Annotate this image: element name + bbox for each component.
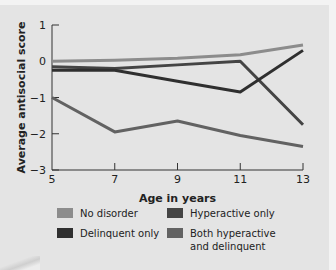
legend-label-line: Both hyperactive (190, 227, 276, 240)
y-tick-label: −1 (30, 92, 46, 105)
y-tick-label: −2 (30, 128, 46, 141)
series-line (52, 45, 303, 61)
legend-swatch (167, 208, 183, 218)
y-tick-label: 0 (39, 55, 46, 68)
legend-label: Hyperactive only (190, 207, 275, 220)
legend-swatch (167, 228, 183, 238)
x-tick-label: 9 (174, 173, 181, 186)
legend-item-hyperactive-only: Hyperactive only (167, 207, 275, 220)
legend-swatch (57, 228, 73, 238)
legend-label: Delinquent only (80, 227, 159, 240)
y-tick-label: −3 (30, 164, 46, 177)
x-tick-label: 11 (233, 173, 247, 186)
x-tick-label: 5 (49, 173, 56, 186)
y-tick-label: 1 (39, 19, 46, 32)
legend-label: No disorder (80, 207, 138, 220)
x-tick-label: 13 (296, 173, 310, 186)
legend-item-both: Both hyperactive and delinquent (167, 227, 276, 253)
legend-item-delinquent-only: Delinquent only (57, 227, 159, 240)
legend-swatch (57, 208, 73, 218)
legend-item-no-disorder: No disorder (57, 207, 138, 220)
y-axis-label: Average antisocial score (15, 22, 28, 174)
x-tick-label: 7 (111, 173, 118, 186)
legend-label: Both hyperactive and delinquent (190, 227, 276, 253)
x-axis-label: Age in years (139, 192, 217, 205)
series-line (52, 98, 303, 147)
legend-label-line: and delinquent (190, 240, 276, 253)
